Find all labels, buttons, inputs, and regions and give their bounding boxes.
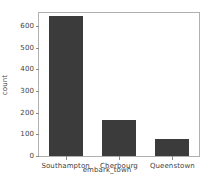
x-tick-mark <box>66 156 67 160</box>
y-tick-mark <box>36 69 40 70</box>
bar-queenstown <box>155 139 189 156</box>
x-tick-mark <box>119 156 120 160</box>
y-axis-label: count <box>2 74 9 94</box>
y-tick-label: 400 <box>20 66 34 73</box>
y-tick-label: 200 <box>20 109 34 116</box>
x-axis-label: embark_town <box>83 166 132 174</box>
x-tick-label: Queenstown <box>150 162 195 170</box>
y-tick-label: 600 <box>20 23 34 30</box>
y-tick-mark <box>36 48 40 49</box>
x-tick-mark <box>172 156 173 160</box>
y-tick-mark <box>36 134 40 135</box>
y-tick-mark <box>36 91 40 92</box>
y-tick-label: 0 <box>29 153 34 160</box>
y-tick-mark <box>36 26 40 27</box>
bar-chart-figure: 0100200300400500600 SouthamptonCherbourg… <box>0 0 214 192</box>
y-tick-mark <box>36 113 40 114</box>
plot-area <box>39 13 199 156</box>
y-tick-label: 300 <box>20 88 34 95</box>
y-tick-mark <box>36 156 40 157</box>
y-tick-label: 500 <box>20 44 34 51</box>
bar-southampton <box>49 16 83 156</box>
y-tick-label: 100 <box>20 131 34 138</box>
plot-axes: 0100200300400500600 SouthamptonCherbourg… <box>38 12 200 157</box>
bar-cherbourg <box>102 120 136 156</box>
